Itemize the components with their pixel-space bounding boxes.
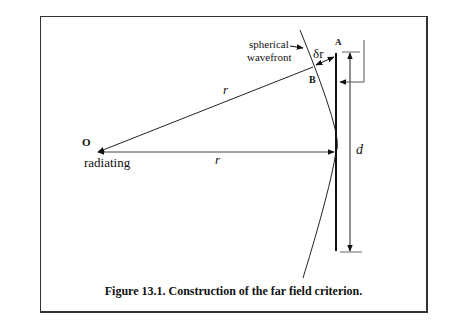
lower-r-label: r [215,152,221,167]
delta-r-label: δr [313,46,324,61]
far-field-diagram: O radiating r r spherical wavefront δr A… [0,0,451,328]
aperture-d-label: d [356,142,364,157]
upper-r-label: r [223,82,229,97]
point-a-label: A [335,37,342,47]
figure-caption: Figure 13.1. Construction of the far fie… [40,284,427,299]
wavefront-label: wavefront [247,51,292,63]
upper-r-ray [98,67,313,152]
spherical-wavefront-curve [300,30,338,278]
spherical-label: spherical [249,38,289,50]
origin-label: O [82,136,91,148]
wavefront-pointer-arrow [290,46,303,48]
point-b-label: B [309,74,316,85]
radiating-label: radiating [84,155,131,170]
point-a-bracket [340,40,364,82]
